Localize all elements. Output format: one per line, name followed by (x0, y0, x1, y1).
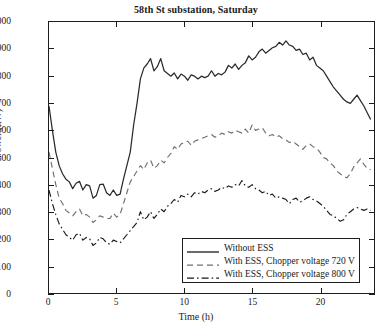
legend-item-label: Without ESS (224, 243, 274, 253)
y-tick-mark (369, 103, 375, 104)
x-tick-mark (116, 288, 117, 294)
legend-item-label: With ESS, Chopper voltage 720 V (224, 256, 355, 266)
y-tick-mark (369, 267, 375, 268)
series-line-3 (49, 181, 371, 246)
y-tick-mark (369, 185, 375, 186)
y-tick-mark (48, 48, 54, 49)
y-tick-label: 1000 (0, 16, 11, 26)
chart-title: 58th St substation, Saturday (0, 4, 392, 15)
legend-item[interactable]: Without ESS (186, 241, 355, 254)
y-tick-mark (369, 294, 375, 295)
x-tick-mark (48, 288, 49, 294)
legend-item[interactable]: With ESS, Chopper voltage 800 V (186, 267, 355, 280)
x-tick-mark (252, 288, 253, 294)
y-tick-label: 800 (0, 71, 11, 81)
y-tick-mark (48, 76, 54, 77)
y-tick-mark (48, 239, 54, 240)
y-tick-mark (369, 158, 375, 159)
series-line-1 (49, 41, 371, 198)
x-tick-mark (184, 288, 185, 294)
y-tick-mark (48, 294, 54, 295)
x-tick-mark (321, 288, 322, 294)
x-tick-label: 10 (169, 297, 199, 307)
y-tick-mark (369, 21, 375, 22)
y-tick-label: 600 (0, 125, 11, 135)
y-tick-label: 500 (0, 153, 11, 163)
y-tick-mark (369, 48, 375, 49)
y-tick-label: 100 (0, 262, 11, 272)
x-tick-mark (48, 21, 49, 27)
y-tick-label: 900 (0, 43, 11, 53)
y-tick-mark (48, 212, 54, 213)
x-tick-label: 20 (306, 297, 336, 307)
y-tick-mark (48, 130, 54, 131)
legend-line-swatch-icon (186, 269, 220, 279)
x-tick-mark (321, 21, 322, 27)
legend-line-swatch-icon (186, 243, 220, 253)
x-tick-mark (252, 21, 253, 27)
y-tick-mark (48, 103, 54, 104)
y-tick-mark (48, 185, 54, 186)
y-tick-mark (48, 158, 54, 159)
figure: 58th St substation, Saturday Power (kW) … (0, 0, 392, 336)
series-line-2 (49, 125, 371, 223)
y-tick-label: 0 (0, 289, 11, 299)
x-axis-title: Time (h) (0, 311, 392, 322)
y-tick-label: 700 (0, 98, 11, 108)
y-tick-label: 200 (0, 234, 11, 244)
y-tick-mark (369, 239, 375, 240)
y-tick-mark (48, 267, 54, 268)
y-tick-mark (369, 76, 375, 77)
y-tick-mark (369, 212, 375, 213)
y-tick-mark (369, 130, 375, 131)
legend: Without ESSWith ESS, Chopper voltage 720… (182, 238, 360, 283)
x-tick-label: 5 (101, 297, 131, 307)
x-tick-label: 0 (33, 297, 63, 307)
x-tick-label: 15 (237, 297, 267, 307)
y-tick-label: 400 (0, 180, 11, 190)
x-tick-mark (116, 21, 117, 27)
legend-item-label: With ESS, Chopper voltage 800 V (224, 269, 355, 279)
legend-line-swatch-icon (186, 256, 220, 266)
x-tick-mark (184, 21, 185, 27)
legend-item[interactable]: With ESS, Chopper voltage 720 V (186, 254, 355, 267)
y-tick-label: 300 (0, 207, 11, 217)
